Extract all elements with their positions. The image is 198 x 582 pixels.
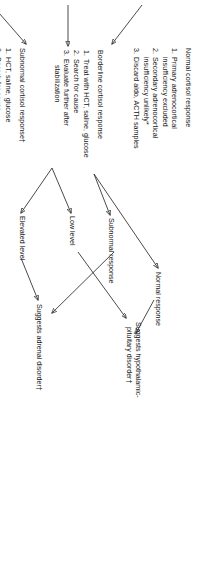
node-subnormal-cortisol-response: Subnormal cortisol response† 1. HCT, sal… <box>0 48 26 145</box>
leaf-suggests-hypothalamic-pituitary-disorder: Suggests hypothalamic- pituitary disorde… <box>124 322 142 398</box>
list-item-number: 3. <box>61 50 70 56</box>
node-normal-cortisol-response: Normal cortisol response 1. Primary adre… <box>130 48 192 149</box>
list-item: 1. Treat with HCT, saline, glucose <box>81 50 90 158</box>
edge-split-to-low <box>52 168 71 213</box>
list-item-number: 2. <box>0 48 2 54</box>
edge-elevated-to-adrenal <box>21 258 38 300</box>
list-item: 1. Primary adrenocortical insufficiency … <box>159 48 177 149</box>
flowchart-canvas: Normal cortisol response 1. Primary adre… <box>0 0 198 582</box>
list-item-text: Evaluate further after <box>61 59 70 158</box>
rotated-page-wrapper: Normal cortisol response 1. Primary adre… <box>0 0 198 582</box>
leaf-low-level: Low level <box>67 216 76 246</box>
list-item-number: 1. <box>169 48 178 54</box>
edge-subnormal-response-to-adrenal <box>52 252 114 313</box>
node-subnormal-items: 1. HCT, saline, glucose 2. Search for ca… <box>0 48 12 145</box>
leaf-suggests-adrenal-disorder: Suggests adrenal disorder† <box>34 304 43 391</box>
edge-split-to-subnormal-response <box>94 174 110 215</box>
list-item-number: 2. <box>71 50 80 56</box>
list-item-text: Search for cause <box>71 59 80 158</box>
list-item-text: HCT, saline, glucose <box>3 57 12 145</box>
leaf-elevated-level: Elevated level <box>17 216 26 260</box>
list-item: 1. HCT, saline, glucose <box>3 48 12 145</box>
list-item-text-cont: insufficiency excluded <box>159 57 168 149</box>
list-item-text: Primary adrenocortical <box>169 57 178 149</box>
node-normal-heading: Normal cortisol response <box>183 48 192 149</box>
node-borderline-cortisol-response: Borderline cortisol response 1. Treat wi… <box>51 50 104 158</box>
list-item: 3. Evaluate further after stabilization <box>52 50 70 158</box>
edge-split-to-normal-response <box>94 174 158 268</box>
list-item-number: 2. <box>150 48 159 54</box>
list-item-text: Treat with HCT, saline, glucose <box>81 59 90 158</box>
node-normal-items: 1. Primary adrenocortical insufficiency … <box>131 48 178 149</box>
list-item: 2. Secondary adrenocortical insufficienc… <box>140 48 158 149</box>
list-item-number: 1. <box>3 48 12 54</box>
edge-trunk-to-subnormal <box>0 5 26 44</box>
list-item-text-cont: insufficiency unlikely* <box>140 57 149 149</box>
list-item-text-cont: stabilization <box>52 59 61 158</box>
list-item: 3. Discard aldo, ACTH samples <box>131 48 140 149</box>
edge-trunk-to-normal <box>112 5 142 44</box>
list-item: 2. Search for cause <box>71 50 80 158</box>
node-borderline-items: 1. Treat with HCT, saline, glucose 2. Se… <box>52 50 90 158</box>
list-item-number: 3. <box>131 48 140 54</box>
node-borderline-heading: Borderline cortisol response <box>95 50 104 158</box>
leaf-normal-response: Normal response <box>153 272 162 326</box>
leaf-subnormal-response: Subnormal response <box>106 218 115 283</box>
list-item-text: Secondary adrenocortical <box>150 57 159 149</box>
list-item-number: 1. <box>81 50 90 56</box>
list-item: 2. Search for cause <box>0 48 2 145</box>
edge-split-to-elevated <box>21 168 52 213</box>
list-item-text: Search for cause <box>0 57 2 145</box>
node-subnormal-heading: Subnormal cortisol response† <box>17 48 26 145</box>
hp-disorder-line-2: pituitary disorder† <box>124 322 133 383</box>
hp-disorder-line-1: Suggests hypothalamic- <box>134 322 142 398</box>
list-item-text: Discard aldo, ACTH samples <box>131 57 140 149</box>
edge-low-to-hp <box>78 252 126 318</box>
